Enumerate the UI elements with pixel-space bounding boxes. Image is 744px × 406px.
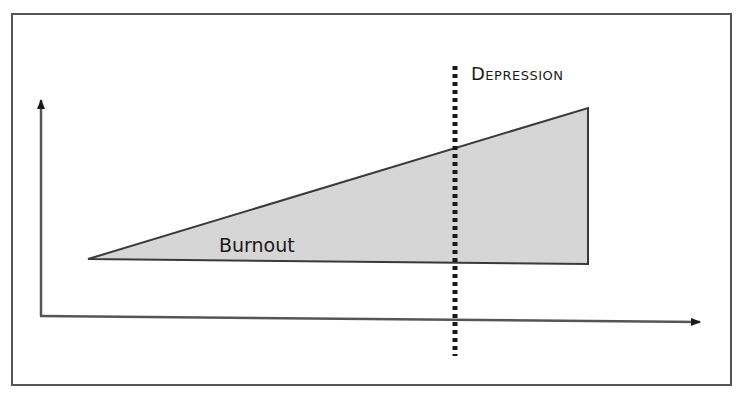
burnout-label: Burnout [219,234,295,256]
burnout-area [88,108,588,264]
x-axis [40,316,700,322]
diagram-canvas [0,0,744,406]
depression-label: Depression [471,63,563,84]
